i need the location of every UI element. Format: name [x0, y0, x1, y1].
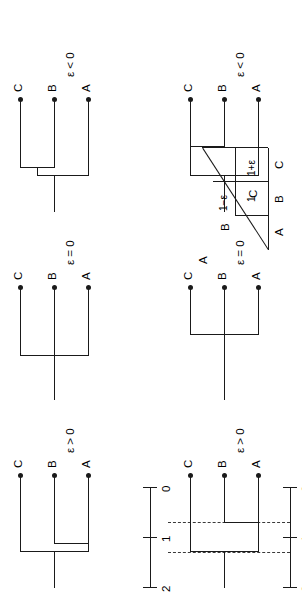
- scalebar-bottom: 2 1 0: [290, 470, 302, 590]
- branch-A: [88, 100, 89, 176]
- tip-node-C: [18, 473, 23, 478]
- internal-branch-BC: [37, 167, 38, 176]
- tip-node-C: [188, 285, 193, 290]
- root-branch: [224, 552, 225, 588]
- tip-label-C: C: [13, 271, 24, 280]
- branch-B: [224, 476, 225, 523]
- tip-label-A: A: [81, 460, 92, 468]
- root-branch: [54, 552, 55, 588]
- tip-node-A: [256, 97, 261, 102]
- internal-node-AB-vertical: [224, 522, 258, 523]
- matrix-row-label-B: B: [219, 223, 231, 231]
- tip-label-A: A: [251, 84, 262, 92]
- matrix-col-label-A: A: [273, 228, 285, 236]
- branch-C: [20, 288, 21, 356]
- matrix-col-label-B: B: [273, 195, 285, 203]
- scalebar-top: 2 1 0: [140, 470, 174, 590]
- branch-B: [54, 476, 55, 544]
- tip-label-C: C: [13, 459, 24, 468]
- condition-label: ε = 0: [64, 240, 76, 265]
- tip-node-B: [222, 473, 227, 478]
- tip-node-C: [18, 285, 23, 290]
- tree-top-epsilon-positive: C B A ε > 0: [6, 414, 118, 590]
- tip-label-A: A: [81, 84, 92, 92]
- tip-node-B: [222, 285, 227, 290]
- matrix-grid-hline-1: [235, 148, 236, 216]
- matrix-col-label-C: C: [273, 161, 285, 169]
- tip-node-C: [188, 97, 193, 102]
- branch-A: [258, 476, 259, 523]
- tip-node-A: [86, 285, 91, 290]
- internal-branch-AB: [88, 543, 89, 552]
- matrix-bottom-edge: [268, 148, 269, 250]
- condition-label: ε < 0: [64, 52, 76, 77]
- branch-B: [54, 100, 55, 168]
- branch-C: [190, 100, 191, 147]
- tip-node-B: [222, 97, 227, 102]
- scalebar-tick-1: [283, 537, 297, 538]
- scalebar-tick-2: [143, 587, 157, 588]
- branch-B: [54, 288, 55, 356]
- scalebar-tick-label-0: 0: [160, 486, 172, 492]
- internal-branch-BC: [190, 146, 191, 176]
- scalebar-tick-0: [143, 487, 157, 488]
- root-node-vertical: [20, 551, 88, 552]
- tip-label-B: B: [47, 84, 58, 92]
- matrix-row-label-C: C: [247, 190, 259, 198]
- matrix-cell-B-A: 1−ε: [219, 195, 229, 211]
- rotated-figure-root: C B A ε > 0 C B A ε = 0: [0, 0, 302, 608]
- branch-B: [224, 288, 225, 335]
- condition-label: ε < 0: [234, 52, 246, 77]
- condition-label: ε > 0: [234, 428, 246, 453]
- tree-top-epsilon-zero: C B A ε = 0: [6, 226, 118, 402]
- tip-node-A: [86, 97, 91, 102]
- root-node-vertical: [190, 551, 258, 552]
- tip-node-C: [18, 97, 23, 102]
- scalebar-axis: [290, 488, 291, 588]
- branch-A: [88, 476, 89, 544]
- condition-label: ε > 0: [64, 428, 76, 453]
- tree-bottom-epsilon-positive: C B A ε > 0: [176, 414, 288, 590]
- tip-label-A: A: [251, 460, 262, 468]
- scalebar-axis: [150, 488, 151, 588]
- internal-branch-AB: [258, 522, 259, 552]
- tip-node-B: [52, 97, 57, 102]
- scalebar-tick-label-1: 1: [300, 536, 302, 542]
- tip-node-A: [256, 285, 261, 290]
- figure-canvas: C B A ε > 0 C B A ε = 0: [0, 0, 302, 608]
- branch-A: [88, 288, 89, 356]
- tip-label-B: B: [47, 460, 58, 468]
- root-branch: [54, 176, 55, 212]
- tip-node-B: [52, 285, 57, 290]
- matrix-grid-vline-1: [235, 215, 268, 216]
- branch-C: [190, 476, 191, 552]
- tip-label-B: B: [217, 84, 228, 92]
- scalebar-tick-label-0: 0: [300, 486, 302, 492]
- tip-label-C: C: [183, 271, 194, 280]
- root-branch: [224, 334, 225, 400]
- tip-label-A: A: [81, 272, 92, 280]
- root-node-vertical: [37, 175, 88, 176]
- scalebar-tick-label-1: 1: [160, 536, 172, 542]
- scalebar-tick-2: [283, 587, 297, 588]
- tip-node-A: [256, 473, 261, 478]
- tip-label-B: B: [217, 272, 228, 280]
- scalebar-tick-label-2: 2: [160, 586, 172, 592]
- tip-label-C: C: [183, 83, 194, 92]
- tip-label-A: A: [251, 272, 262, 280]
- tip-label-B: B: [47, 272, 58, 280]
- internal-node-AB-vertical: [54, 543, 88, 544]
- scalebar-tick-1: [143, 537, 157, 538]
- branch-A: [258, 288, 259, 335]
- matrix-row-label-A: A: [197, 256, 209, 264]
- internal-node-BC-vertical: [20, 167, 54, 168]
- tip-label-C: C: [13, 83, 24, 92]
- matrix-cell-C-B: 1+ε: [247, 160, 257, 176]
- branch-C: [190, 288, 191, 335]
- tip-node-B: [52, 473, 57, 478]
- distance-matrix: 1−ε 1 1+ε A B C A B C: [196, 106, 296, 256]
- tip-node-C: [188, 473, 193, 478]
- matrix-grid-vline-2: [213, 181, 268, 182]
- tip-label-C: C: [183, 459, 194, 468]
- branch-C: [20, 100, 21, 168]
